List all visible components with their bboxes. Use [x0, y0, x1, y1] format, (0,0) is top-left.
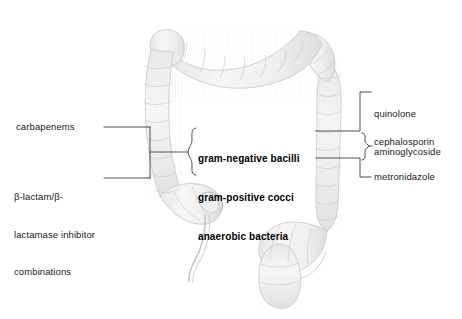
label-beta-lactam-combinations: β-lactam/β- lactamase inhibitor combinat… [14, 166, 95, 304]
label-quinolone: quinolone [374, 108, 441, 121]
label-beta-lactam-line-2: lactamase inhibitor [14, 229, 95, 242]
center-brace [188, 128, 196, 175]
leader-gram-negative-to-quinolone [316, 92, 371, 131]
antibiotic-colon-flora-diagram: carbapenems β-lactam/β- lactamase inhibi… [0, 0, 462, 319]
label-quinolone-aminoglycoside: quinolone aminoglycoside [374, 83, 441, 183]
cephalosporin-brace [362, 133, 369, 160]
label-cephalosporin: cephalosporin [374, 136, 434, 149]
label-beta-lactam-line-1: β-lactam/β- [14, 191, 95, 204]
label-gram-negative-bacilli: gram-negative bacilli [198, 152, 300, 165]
label-metronidazole: metronidazole [374, 171, 435, 184]
label-flora-group: gram-negative bacilli gram-positive cocc… [198, 126, 300, 269]
label-anaerobic-bacteria: anaerobic bacteria [198, 230, 300, 243]
label-carbapenems: carbapenems [16, 121, 75, 134]
label-beta-lactam-line-3: combinations [14, 266, 95, 279]
label-gram-positive-cocci: gram-positive cocci [198, 191, 300, 204]
leader-anaerobic-to-metronidazole [316, 158, 371, 177]
